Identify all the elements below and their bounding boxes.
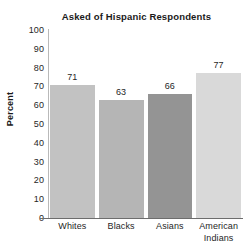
- x-axis-category-labels: WhitesBlacksAsiansAmericanIndians: [48, 221, 243, 252]
- y-axis-tick-label: 20: [14, 175, 44, 185]
- y-axis-tick-label: 70: [14, 81, 44, 91]
- y-axis-tick-label: 50: [14, 119, 44, 129]
- x-axis-category-label-line: Asians: [143, 221, 198, 233]
- x-axis-category-label: Asians: [143, 221, 198, 233]
- y-axis-tick-label: 90: [14, 44, 44, 54]
- x-axis-line: [40, 218, 243, 219]
- y-axis-tick-label: 60: [14, 100, 44, 110]
- x-axis-category-label-line: American: [191, 221, 243, 233]
- bar: [196, 73, 241, 218]
- bar: [148, 94, 193, 218]
- y-axis-tick-label: 30: [14, 157, 44, 167]
- bar-value-label: 71: [67, 72, 77, 82]
- chart-screenshot: Asked of Hispanic Respondents Percent 10…: [0, 0, 243, 252]
- bar-group: 71: [50, 30, 95, 218]
- chart-title: Asked of Hispanic Respondents: [34, 11, 239, 22]
- bar: [99, 100, 144, 218]
- bar-value-label: 66: [165, 81, 175, 91]
- bar-group: 66: [148, 30, 193, 218]
- bar-value-label: 77: [214, 60, 224, 70]
- x-axis-category-label-line: Blacks: [94, 221, 149, 233]
- x-axis-category-label: AmericanIndians: [191, 221, 243, 244]
- x-axis-category-label: Whites: [45, 221, 100, 233]
- y-axis-tick-labels: 1009080706050403020100: [12, 30, 44, 218]
- x-axis-category-label: Blacks: [94, 221, 149, 233]
- x-axis-category-label-line: Indians: [191, 233, 243, 245]
- x-axis-category-label-line: Whites: [45, 221, 100, 233]
- bar-group: 77: [196, 30, 241, 218]
- bar-value-label: 63: [116, 87, 126, 97]
- plot-area: 71636677: [48, 30, 243, 218]
- bar: [50, 85, 95, 218]
- bar-group: 63: [99, 30, 144, 218]
- y-axis-tick-label: 10: [14, 194, 44, 204]
- y-axis-tick-label: 100: [14, 25, 44, 35]
- y-axis-tick-label: 40: [14, 138, 44, 148]
- y-axis-tick-label: 80: [14, 63, 44, 73]
